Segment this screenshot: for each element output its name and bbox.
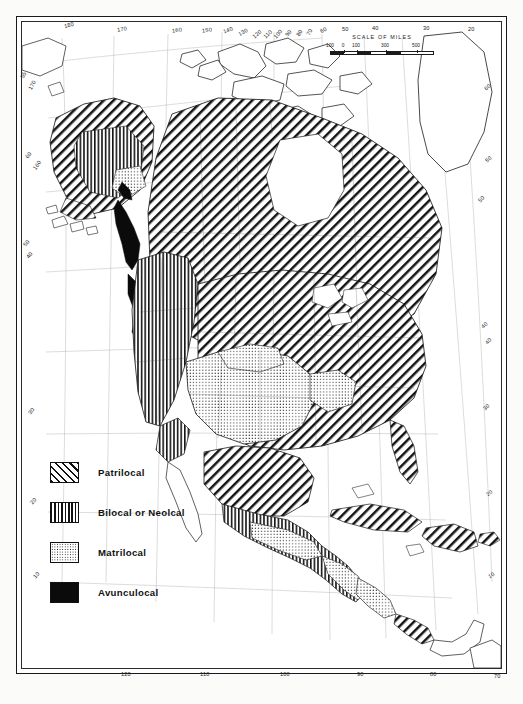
lon-label-top-50: 50 <box>342 26 349 32</box>
legend-item-avunculocal: Avunculocal <box>50 572 185 612</box>
scale-bar-title: SCALE OF MILES <box>330 34 434 40</box>
scale-label-4: 500 <box>412 43 420 48</box>
map-figure: SCALE OF MILES 100 0 100 300 500 180 170… <box>0 0 523 704</box>
legend-swatch-avunculocal <box>50 582 79 603</box>
scale-bar-numbers: 100 0 100 300 500 <box>330 43 434 50</box>
lon-label-top-30: 30 <box>423 25 430 31</box>
scale-bar-graphic <box>330 51 434 55</box>
scale-label-0: 100 <box>326 43 334 48</box>
lon-label-bottom-120: 120 <box>121 671 131 677</box>
legend-label-matrilocal: Matrilocal <box>98 547 146 558</box>
legend-swatch-patrilocal <box>50 462 79 483</box>
legend-item-matrilocal: Matrilocal <box>50 532 185 572</box>
legend-label-avunculocal: Avunculocal <box>98 587 159 598</box>
scale-label-1: 0 <box>342 43 345 48</box>
legend-item-bilocal: Bilocal or Neolcal <box>50 492 185 532</box>
lon-label-top-40: 40 <box>372 25 379 31</box>
legend-label-bilocal: Bilocal or Neolcal <box>98 507 185 518</box>
lon-label-bottom-100: 100 <box>280 671 290 677</box>
scale-label-2: 100 <box>352 43 360 48</box>
legend-label-patrilocal: Patrilocal <box>98 467 145 478</box>
lon-label-bottom-80: 80 <box>430 671 437 677</box>
lon-label-top-20: 20 <box>468 26 475 32</box>
legend-item-patrilocal: Patrilocal <box>50 452 185 492</box>
scale-bar: SCALE OF MILES 100 0 100 300 500 <box>330 34 434 55</box>
lon-label-bottom-70: 70 <box>494 673 501 679</box>
lon-label-bottom-110: 110 <box>200 671 210 677</box>
legend: Patrilocal Bilocal or Neolcal Matrilocal… <box>50 452 185 612</box>
legend-swatch-matrilocal <box>50 542 79 563</box>
lon-label-bottom-90: 90 <box>357 671 364 677</box>
scale-label-3: 300 <box>381 43 389 48</box>
legend-swatch-bilocal <box>50 502 79 523</box>
